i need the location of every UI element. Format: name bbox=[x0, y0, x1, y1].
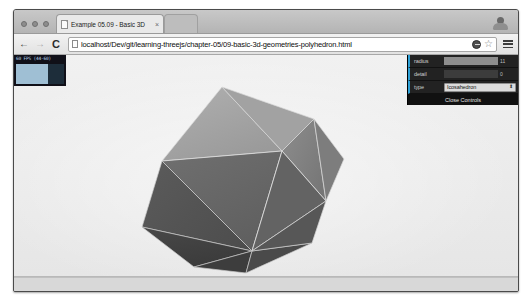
detail-slider[interactable] bbox=[444, 70, 498, 78]
fps-graph bbox=[16, 64, 64, 84]
control-label-radius: radius bbox=[410, 58, 444, 64]
control-field-type[interactable]: Icosahedron ⬍ bbox=[444, 81, 518, 93]
menu-line-1 bbox=[503, 40, 513, 42]
fps-graph-fill bbox=[16, 64, 48, 84]
reload-button[interactable]: C bbox=[50, 37, 62, 51]
control-label-detail: detail bbox=[410, 71, 444, 77]
window-minimize-button[interactable] bbox=[32, 21, 38, 27]
detail-value[interactable]: 0 bbox=[500, 71, 516, 77]
extension-icon[interactable] bbox=[472, 40, 481, 49]
tab-close-icon[interactable]: × bbox=[155, 21, 160, 28]
fps-stats-widget[interactable]: 60 FPS (44-60) bbox=[14, 55, 66, 86]
window-close-button[interactable] bbox=[21, 21, 27, 27]
window-controls bbox=[14, 21, 56, 33]
bookmark-star-icon[interactable]: ☆ bbox=[484, 39, 493, 49]
window-bottom-chrome bbox=[14, 277, 518, 291]
avatar-body-shape bbox=[493, 23, 508, 30]
webgl-viewport[interactable]: 60 FPS (44-60) radius 11 bbox=[14, 55, 518, 277]
radius-slider-fill bbox=[444, 57, 498, 65]
address-bar[interactable]: localhost/Dev/git/learning-threejs/chapt… bbox=[68, 37, 497, 52]
avatar[interactable] bbox=[490, 14, 512, 31]
menu-line-3 bbox=[503, 47, 513, 49]
control-row-type[interactable]: type Icosahedron ⬍ bbox=[408, 81, 518, 94]
tab-favicon-icon bbox=[61, 20, 68, 29]
type-dropdown[interactable]: Icosahedron ⬍ bbox=[444, 83, 516, 92]
omnibox-actions: ☆ bbox=[472, 39, 493, 49]
browser-toolbar: ← → C localhost/Dev/git/learning-threejs… bbox=[14, 34, 518, 55]
window-maximize-button[interactable] bbox=[43, 21, 49, 27]
hamburger-menu-icon[interactable] bbox=[503, 40, 513, 48]
tab-strip: Example 05.09 - Basic 3D × bbox=[14, 10, 518, 34]
tab-title: Example 05.09 - Basic 3D bbox=[71, 21, 152, 28]
chevron-down-icon: ⬍ bbox=[509, 85, 513, 90]
forward-button[interactable]: → bbox=[34, 37, 46, 51]
fps-label: 60 FPS (44-60) bbox=[14, 55, 66, 61]
control-row-radius[interactable]: radius 11 bbox=[408, 55, 518, 68]
menu-line-2 bbox=[503, 43, 513, 45]
control-label-type: type bbox=[410, 84, 444, 90]
control-field-radius[interactable]: 11 bbox=[444, 55, 518, 67]
radius-slider[interactable] bbox=[444, 57, 498, 65]
browser-tab-active[interactable]: Example 05.09 - Basic 3D × bbox=[56, 14, 164, 33]
control-field-detail[interactable]: 0 bbox=[444, 68, 518, 80]
browser-tab-background[interactable] bbox=[164, 14, 198, 33]
back-button[interactable]: ← bbox=[18, 37, 30, 51]
page-info-icon[interactable] bbox=[72, 40, 78, 48]
type-dropdown-value: Icosahedron bbox=[447, 84, 476, 90]
url-text[interactable]: localhost/Dev/git/learning-threejs/chapt… bbox=[81, 40, 469, 49]
radius-value[interactable]: 11 bbox=[500, 58, 516, 64]
screenshot-root: Example 05.09 - Basic 3D × ← → C localho… bbox=[0, 0, 532, 304]
dat-gui-control-panel[interactable]: radius 11 detail 0 bbox=[407, 55, 518, 105]
close-controls-button[interactable]: Close Controls bbox=[408, 94, 518, 105]
browser-window: Example 05.09 - Basic 3D × ← → C localho… bbox=[13, 9, 519, 292]
control-row-detail[interactable]: detail 0 bbox=[408, 68, 518, 81]
